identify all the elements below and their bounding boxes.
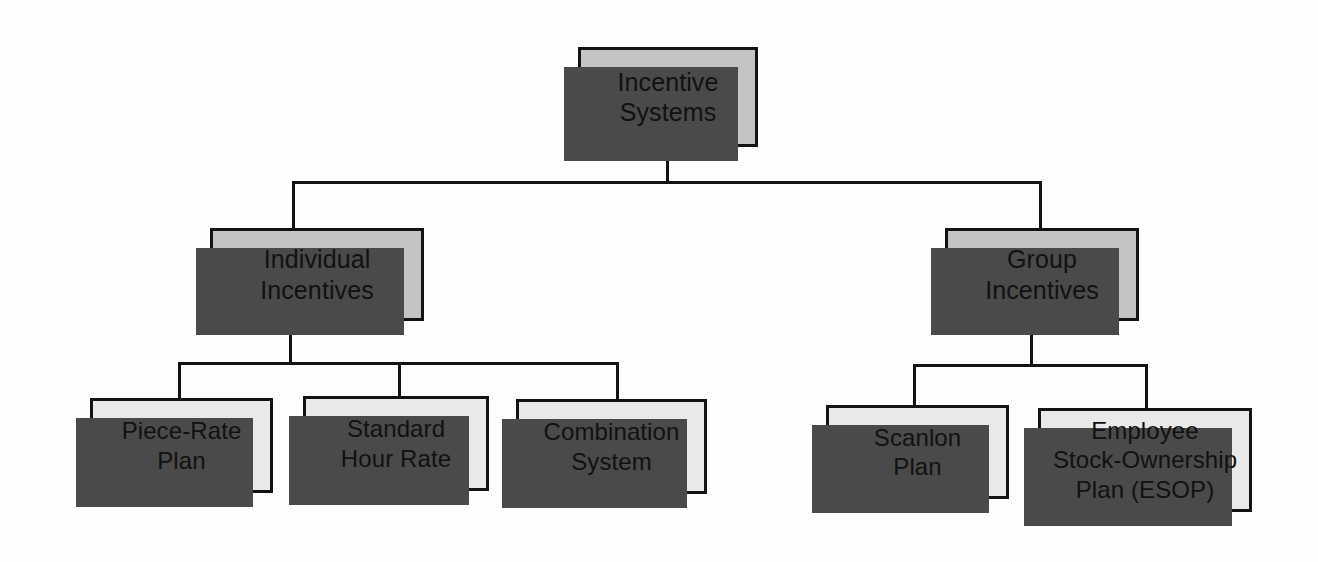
node-label-line2: Plan	[157, 447, 205, 474]
node-label: CombinationSystem	[538, 417, 686, 476]
node-label-line2: Hour Rate	[341, 445, 451, 472]
connector-level1-bus	[292, 181, 1042, 184]
node-label: StandardHour Rate	[335, 414, 457, 473]
node-label-line1: Standard	[347, 415, 445, 442]
node-label-line1: Combination	[544, 418, 680, 445]
node-standard-hour-rate[interactable]: StandardHour Rate	[303, 396, 489, 491]
node-label-line3: Plan (ESOP)	[1076, 476, 1214, 503]
node-incentive-systems[interactable]: IncentiveSystems	[578, 47, 758, 147]
node-employee-stock-ownership-plan[interactable]: EmployeeStock-OwnershipPlan (ESOP)	[1038, 408, 1252, 512]
connector-group-bus	[913, 364, 1148, 367]
connector-to-individual-incentives	[292, 181, 295, 229]
node-label-line2: Stock-Ownership	[1053, 446, 1237, 473]
organizational-chart: IncentiveSystems IndividualIncentives Gr…	[0, 0, 1318, 562]
connector-to-scanlon-plan	[913, 364, 916, 406]
node-label: EmployeeStock-OwnershipPlan (ESOP)	[1047, 416, 1243, 504]
node-label-line1: Scanlon	[874, 424, 961, 451]
connector-to-combination-system	[616, 362, 619, 399]
node-label-line2: Systems	[620, 98, 717, 126]
node-group-incentives[interactable]: GroupIncentives	[945, 228, 1139, 321]
node-label-line1: Group	[1007, 245, 1077, 273]
node-label: ScanlonPlan	[868, 423, 967, 482]
node-piece-rate-plan[interactable]: Piece-RatePlan	[90, 398, 273, 493]
node-label: IndividualIncentives	[254, 244, 380, 305]
node-label: GroupIncentives	[979, 244, 1105, 305]
node-label: IncentiveSystems	[612, 67, 725, 128]
node-label-line1: Employee	[1091, 417, 1199, 444]
node-label-line1: Individual	[264, 245, 371, 273]
connector-to-standard-hour-rate	[398, 362, 401, 399]
connector-to-esop-plan	[1145, 364, 1148, 409]
connector-to-piece-rate-plan	[178, 362, 181, 399]
node-scanlon-plan[interactable]: ScanlonPlan	[826, 405, 1009, 499]
node-label-line1: Incentive	[618, 68, 719, 96]
node-label-line2: Incentives	[985, 276, 1099, 304]
node-label-line2: Plan	[893, 453, 941, 480]
node-label: Piece-RatePlan	[116, 416, 248, 475]
node-label-line2: System	[571, 448, 652, 475]
node-combination-system[interactable]: CombinationSystem	[516, 399, 707, 494]
node-individual-incentives[interactable]: IndividualIncentives	[210, 228, 424, 321]
connector-to-group-incentives	[1039, 181, 1042, 229]
node-label-line2: Incentives	[260, 276, 374, 304]
node-label-line1: Piece-Rate	[122, 417, 242, 444]
